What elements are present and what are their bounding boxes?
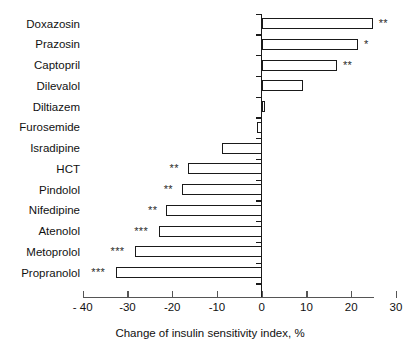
significance-marker: ** — [169, 161, 178, 175]
category-label-captopril: Captopril — [0, 58, 80, 73]
category-label-hct: HCT — [0, 162, 80, 177]
category-tick — [256, 180, 262, 181]
x-tick-mark — [262, 291, 263, 298]
x-tick-label: -20 — [150, 300, 194, 315]
x-tick-mark — [306, 291, 307, 298]
plot-area: Doxazosin**Prazosin*Captopril**Dilevalol… — [0, 0, 420, 300]
significance-marker: ** — [343, 58, 352, 72]
bar-atenolol — [159, 226, 262, 237]
table-row: Doxazosin** — [0, 15, 420, 36]
table-row: Atenolol*** — [0, 222, 420, 243]
bar-pindolol — [182, 184, 262, 195]
table-row: Captopril** — [0, 56, 420, 77]
category-tick — [256, 138, 262, 139]
category-tick — [256, 76, 262, 77]
category-label-pindolol: Pindolol — [0, 183, 80, 198]
category-label-dilevalol: Dilevalol — [0, 79, 80, 94]
category-tick — [256, 55, 262, 56]
category-tick — [256, 200, 262, 201]
x-tick-label: 10 — [284, 300, 328, 315]
bar-doxazosin — [262, 18, 373, 29]
x-tick-mark — [127, 291, 128, 298]
x-tick-mark — [172, 291, 173, 298]
significance-marker: *** — [110, 244, 124, 258]
bar-nifedipine — [166, 205, 261, 216]
category-label-doxazosin: Doxazosin — [0, 17, 80, 32]
category-tick — [256, 34, 262, 35]
bar-diltiazem — [262, 101, 266, 112]
table-row: Furosemide — [0, 118, 420, 139]
x-tick-mark — [83, 291, 84, 298]
category-tick — [256, 117, 262, 118]
x-tick-mark — [217, 291, 218, 298]
category-tick — [256, 263, 262, 264]
significance-marker: ** — [148, 203, 157, 217]
x-tick-label: 0 — [240, 300, 284, 315]
bar-hct — [188, 163, 262, 174]
x-tick-label: -30 — [105, 300, 149, 315]
category-label-nifedipine: Nifedipine — [0, 203, 80, 218]
x-tick-mark — [396, 291, 397, 298]
table-row: Isradipine — [0, 139, 420, 160]
category-tick — [256, 14, 262, 15]
category-label-diltiazem: Diltiazem — [0, 100, 80, 115]
bar-metoprolol — [135, 246, 262, 257]
table-row: Prazosin* — [0, 35, 420, 56]
category-label-furosemide: Furosemide — [0, 120, 80, 135]
category-label-isradipine: Isradipine — [0, 141, 80, 156]
x-tick-label: 20 — [329, 300, 373, 315]
bar-propranolol — [116, 267, 262, 278]
category-tick — [256, 159, 262, 160]
table-row: Propranolol*** — [0, 264, 420, 285]
significance-marker: *** — [91, 265, 105, 279]
x-tick-mark — [351, 291, 352, 298]
table-row: HCT** — [0, 160, 420, 181]
table-row: Nifedipine** — [0, 201, 420, 222]
bar-dilevalol — [262, 80, 303, 91]
bar-furosemide — [257, 122, 261, 133]
table-row: Pindolol** — [0, 181, 420, 202]
category-tick — [256, 242, 262, 243]
category-label-atenolol: Atenolol — [0, 224, 80, 239]
category-tick — [256, 283, 262, 284]
category-tick — [256, 221, 262, 222]
category-label-prazosin: Prazosin — [0, 37, 80, 52]
category-label-metoprolol: Metoprolol — [0, 245, 80, 260]
x-axis-title: Change of insulin sensitivity index, % — [0, 327, 420, 339]
table-row: Metoprolol*** — [0, 243, 420, 264]
significance-marker: * — [364, 37, 369, 51]
insulin-sensitivity-bar-chart: Doxazosin**Prazosin*Captopril**Dilevalol… — [0, 0, 420, 351]
x-tick-label: - 40 — [61, 300, 105, 315]
category-tick — [256, 97, 262, 98]
x-tick-label: 30 — [374, 300, 418, 315]
significance-marker: ** — [379, 16, 388, 30]
x-tick-label: -10 — [195, 300, 239, 315]
table-row: Dilevalol — [0, 77, 420, 98]
significance-marker: *** — [134, 224, 148, 238]
category-label-propranolol: Propranolol — [0, 266, 80, 281]
bar-isradipine — [222, 143, 261, 154]
table-row: Diltiazem — [0, 98, 420, 119]
significance-marker: ** — [164, 182, 173, 196]
bar-captopril — [262, 60, 337, 71]
bar-prazosin — [262, 39, 358, 50]
